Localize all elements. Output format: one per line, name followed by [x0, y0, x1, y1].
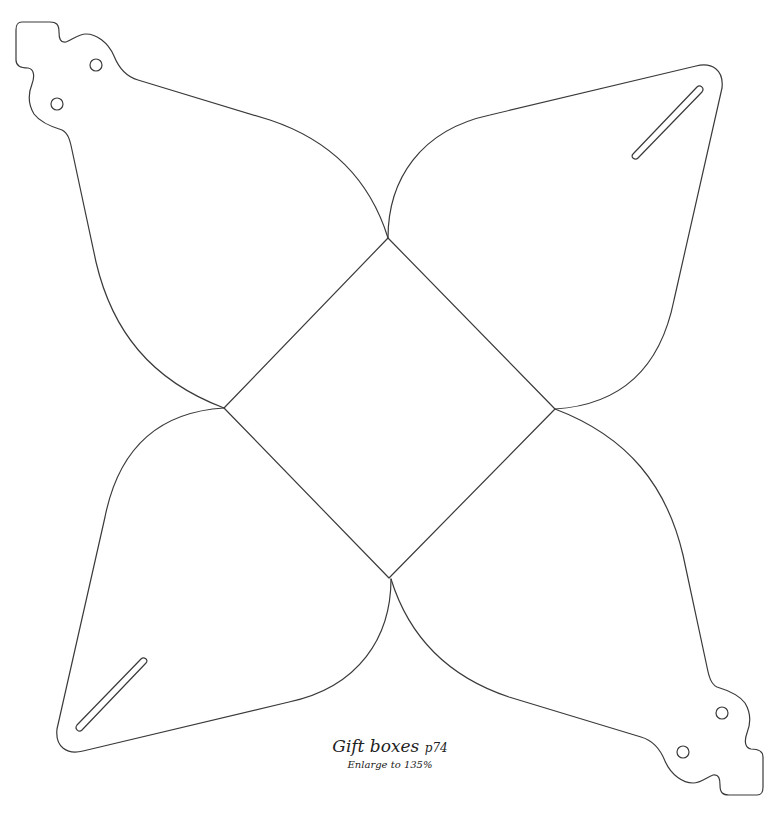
tab-hole-icon: [677, 746, 689, 758]
upper-half: [16, 22, 722, 409]
petal-top-left: [16, 22, 388, 408]
gift-box-template: [0, 0, 776, 823]
tab-hole-icon: [716, 707, 728, 719]
petal-top-right: [388, 65, 722, 409]
center-square-base: [224, 238, 555, 578]
caption-title: Gift boxes p74: [300, 736, 480, 756]
slot-icon: [76, 658, 147, 731]
caption-title-text: Gift boxes: [332, 736, 419, 756]
tab-hole-icon: [90, 59, 102, 71]
caption-page-ref: p74: [425, 741, 448, 755]
caption-instruction: Enlarge to 135%: [300, 759, 480, 770]
tab-hole-icon: [51, 98, 63, 110]
slot-icon: [632, 86, 703, 159]
petal-bottom-left: [57, 408, 391, 752]
